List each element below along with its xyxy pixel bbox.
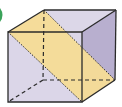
green-marker xyxy=(0,8,3,22)
cube-diagram xyxy=(0,0,122,107)
